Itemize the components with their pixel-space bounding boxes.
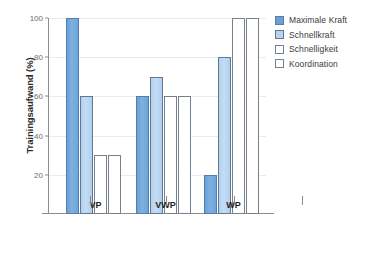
bar-group bbox=[136, 18, 195, 214]
bar[interactable] bbox=[150, 77, 163, 214]
legend-swatch-icon bbox=[275, 59, 284, 68]
x-axis-separator bbox=[166, 196, 167, 205]
y-tick-label: 80 bbox=[34, 53, 43, 62]
bar[interactable] bbox=[246, 18, 259, 214]
y-tick-label: 40 bbox=[34, 131, 43, 140]
bar[interactable] bbox=[66, 18, 79, 214]
legend-item-label: Koordination bbox=[289, 59, 338, 69]
bar-group-bars bbox=[136, 18, 195, 214]
bar-chart: Trainingsaufwand (%) 20406080100 VPVWPWP… bbox=[0, 0, 378, 261]
y-tick-label: 20 bbox=[34, 170, 43, 179]
bar[interactable] bbox=[218, 57, 231, 214]
y-tick-label: 100 bbox=[30, 14, 43, 23]
legend-item-label: Maximale Kraft bbox=[289, 15, 347, 25]
x-axis-separator bbox=[302, 196, 303, 205]
bar-group bbox=[66, 18, 125, 214]
x-axis-separator bbox=[234, 196, 235, 205]
y-axis-title: Trainingsaufwand (%) bbox=[24, 31, 35, 181]
legend-swatch-icon bbox=[275, 16, 284, 25]
bar-group-bars bbox=[66, 18, 125, 214]
bar[interactable] bbox=[232, 18, 245, 214]
legend: Maximale Kraft Schnellkraft Schnelligkei… bbox=[275, 15, 375, 73]
bar-group bbox=[204, 18, 263, 214]
legend-item-schnellkraft[interactable]: Schnellkraft bbox=[275, 30, 375, 40]
bar[interactable] bbox=[136, 96, 149, 214]
y-tick-label: 60 bbox=[34, 92, 43, 101]
bar[interactable] bbox=[80, 96, 93, 214]
bar[interactable] bbox=[178, 96, 191, 214]
legend-item-label: Schnelligkeit bbox=[289, 44, 338, 54]
legend-item-koordination[interactable]: Koordination bbox=[275, 59, 375, 69]
bar-group-bars bbox=[204, 18, 263, 214]
legend-item-label: Schnellkraft bbox=[289, 30, 335, 40]
legend-swatch-icon bbox=[275, 30, 284, 39]
legend-swatch-icon bbox=[275, 45, 284, 54]
x-axis-separator bbox=[90, 196, 91, 205]
x-tick-label: VP bbox=[66, 200, 125, 210]
legend-item-maximale-kraft[interactable]: Maximale Kraft bbox=[275, 15, 375, 25]
legend-item-schnelligkeit[interactable]: Schnelligkeit bbox=[275, 44, 375, 54]
plot-area: 20406080100 bbox=[48, 18, 266, 214]
bar-groups bbox=[48, 18, 266, 214]
